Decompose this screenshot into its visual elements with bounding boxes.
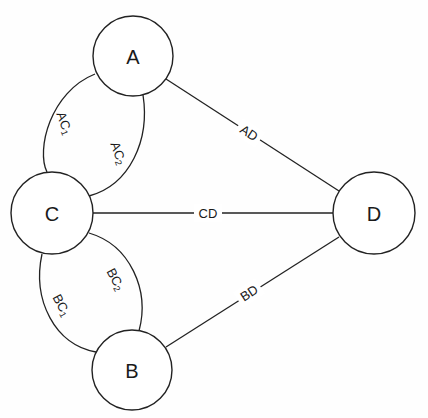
edge-label-bc2: BC2 bbox=[103, 265, 128, 293]
node-d: D bbox=[333, 172, 415, 254]
graph-diagram: AD CD BD AC1 AC2 BC2 BC1 A bbox=[0, 0, 428, 418]
edge-label-ac1: AC1 bbox=[53, 110, 76, 137]
edge-label-bc1: BC1 bbox=[49, 291, 74, 319]
node-a: A bbox=[93, 16, 173, 96]
edge-label-ac2: AC2 bbox=[107, 140, 130, 167]
node-label-b: B bbox=[125, 360, 138, 382]
edge-label-cd: CD bbox=[199, 206, 218, 221]
diagram-svg: AD CD BD AC1 AC2 BC2 BC1 A bbox=[0, 0, 428, 418]
node-label-d: D bbox=[367, 203, 381, 225]
svg-text:BC1: BC1 bbox=[49, 291, 74, 319]
svg-text:BC2: BC2 bbox=[103, 265, 128, 293]
node-b: B bbox=[92, 330, 172, 410]
svg-text:AC2: AC2 bbox=[107, 140, 130, 167]
node-c: C bbox=[11, 172, 93, 254]
node-label-c: C bbox=[45, 203, 59, 225]
svg-text:AC1: AC1 bbox=[53, 110, 76, 137]
node-label-a: A bbox=[126, 46, 140, 68]
